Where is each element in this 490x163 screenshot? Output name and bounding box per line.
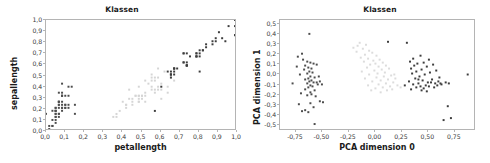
x-tick-label: 0,50 <box>421 133 434 140</box>
x-tick-mark <box>83 130 84 132</box>
plot-area-right <box>279 19 475 130</box>
y-tick-mark <box>43 52 45 53</box>
plot-area-left <box>45 19 236 130</box>
x-tick-mark <box>236 130 237 132</box>
x-tick-mark <box>160 130 161 132</box>
x-tick-mark <box>217 130 218 132</box>
chart-panel-right: Klassen 0,50,40,30,20,10,0-0,1-0,2-0,3-0… <box>245 0 490 163</box>
y-tick-mark <box>43 30 45 31</box>
y-tick-label: 0,2 <box>32 104 42 111</box>
scatter-points-right <box>280 20 474 129</box>
x-tick-label: 0,3 <box>98 133 108 140</box>
x-tick-mark <box>295 130 296 132</box>
y-tick-label: 0,3 <box>32 93 42 100</box>
y-tick-mark <box>277 94 279 95</box>
chart-title-left: Klassen <box>8 5 236 14</box>
y-tick-mark <box>277 43 279 44</box>
y-tick-label: 0,4 <box>266 30 276 37</box>
y-tick-label: -0,4 <box>264 110 276 117</box>
y-tick-label: 0,8 <box>32 38 42 45</box>
y-tick-label: 0,7 <box>32 49 42 56</box>
x-tick-mark <box>401 130 402 132</box>
y-tick-mark <box>277 53 279 54</box>
y-tick-label: 0,5 <box>266 20 276 27</box>
x-tick-label: -0,50 <box>314 133 330 140</box>
x-tick-label: 0,7 <box>174 133 184 140</box>
y-tick-label: 0,1 <box>266 60 276 67</box>
x-tick-label: 0,9 <box>212 133 222 140</box>
x-axis-label-right: PCA dimension 0 <box>279 143 475 152</box>
y-tick-mark <box>43 63 45 64</box>
y-axis-label-right: PCA dimension 1 <box>253 49 262 125</box>
x-tick-label: -0,25 <box>340 133 356 140</box>
x-tick-label: 0,5 <box>136 133 146 140</box>
y-tick-mark <box>277 73 279 74</box>
chart-panel-left: Klassen 0,00,10,20,30,40,50,60,70,80,91,… <box>0 0 245 163</box>
x-tick-mark <box>45 130 46 132</box>
x-axis-label-left: petallength <box>45 143 236 152</box>
y-tick-label: -0,2 <box>264 90 276 97</box>
y-tick-label: 1,0 <box>32 16 42 23</box>
x-tick-mark <box>64 130 65 132</box>
y-tick-label: 0,0 <box>266 70 276 77</box>
chart-title-right: Klassen <box>275 5 485 14</box>
y-tick-mark <box>277 104 279 105</box>
x-tick-label: 0,0 <box>40 133 50 140</box>
y-tick-mark <box>43 119 45 120</box>
y-tick-label: 0,5 <box>32 71 42 78</box>
x-tick-mark <box>427 130 428 132</box>
y-tick-mark <box>277 124 279 125</box>
x-tick-label: 1,0 <box>231 133 241 140</box>
y-tick-mark <box>43 86 45 87</box>
y-tick-label: -0,5 <box>264 120 276 127</box>
y-tick-label: 0,3 <box>266 40 276 47</box>
figure-root: Klassen 0,00,10,20,30,40,50,60,70,80,91,… <box>0 0 490 163</box>
x-tick-mark <box>121 130 122 132</box>
x-tick-label: 0,1 <box>59 133 69 140</box>
y-tick-label: 0,2 <box>266 50 276 57</box>
x-tick-mark <box>179 130 180 132</box>
y-tick-mark <box>43 19 45 20</box>
x-tick-mark <box>374 130 375 132</box>
y-tick-mark <box>43 75 45 76</box>
y-tick-mark <box>43 97 45 98</box>
x-tick-label: 0,2 <box>78 133 88 140</box>
scatter-points-left <box>46 20 235 129</box>
y-tick-label: 0,9 <box>32 27 42 34</box>
y-tick-mark <box>43 41 45 42</box>
y-tick-label: 0,1 <box>32 115 42 122</box>
y-tick-label: -0,1 <box>264 80 276 87</box>
x-tick-mark <box>321 130 322 132</box>
x-tick-label: 0,75 <box>447 133 460 140</box>
x-tick-label: -0,75 <box>287 133 303 140</box>
y-tick-mark <box>277 63 279 64</box>
x-tick-label: 0,4 <box>117 133 127 140</box>
x-tick-mark <box>141 130 142 132</box>
x-tick-label: 0,00 <box>368 133 381 140</box>
y-tick-mark <box>43 108 45 109</box>
y-tick-label: 0,6 <box>32 60 42 67</box>
x-tick-mark <box>348 130 349 132</box>
y-axis-label-left: sepallength <box>10 57 19 110</box>
x-tick-label: 0,25 <box>394 133 407 140</box>
x-tick-mark <box>454 130 455 132</box>
y-tick-mark <box>277 84 279 85</box>
y-tick-label: -0,3 <box>264 100 276 107</box>
x-tick-mark <box>198 130 199 132</box>
x-tick-label: 0,8 <box>193 133 203 140</box>
x-tick-mark <box>102 130 103 132</box>
x-tick-label: 0,6 <box>155 133 165 140</box>
y-tick-mark <box>277 114 279 115</box>
y-tick-label: 0,4 <box>32 82 42 89</box>
y-tick-mark <box>277 33 279 34</box>
y-tick-mark <box>277 23 279 24</box>
